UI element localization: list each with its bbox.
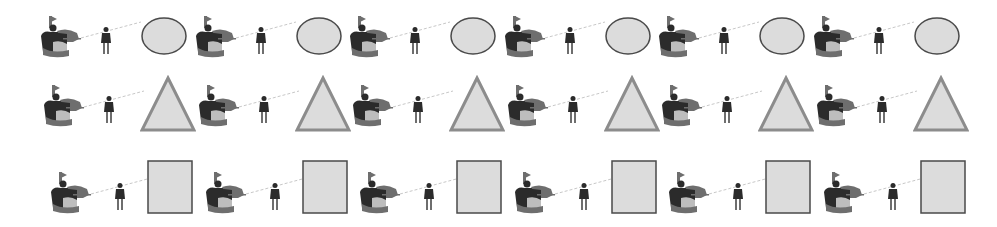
ellipse-shape — [449, 16, 497, 56]
foot-soldier-icon — [257, 95, 271, 125]
cavalry-rider-icon — [192, 14, 238, 60]
triangle-shape — [295, 75, 351, 133]
triangle-shape — [758, 75, 814, 133]
foot-soldier-icon — [422, 182, 436, 212]
foot-soldier-icon — [875, 95, 889, 125]
triangle-shape — [140, 75, 196, 133]
pattern-row-rectangle — [0, 160, 997, 218]
ellipse-shape — [913, 16, 961, 56]
ellipse-shape — [604, 16, 652, 56]
foot-soldier-icon — [99, 26, 113, 56]
foot-soldier-icon — [720, 95, 734, 125]
foot-soldier-icon — [566, 95, 580, 125]
rectangle-shape — [456, 160, 502, 214]
cavalry-rider-icon — [511, 170, 557, 216]
cavalry-rider-icon — [820, 170, 866, 216]
ellipse-shape — [758, 16, 806, 56]
cavalry-rider-icon — [810, 14, 856, 60]
rectangle-shape — [147, 160, 193, 214]
triangle-shape — [913, 75, 969, 133]
triangle-shape — [604, 75, 660, 133]
foot-soldier-icon — [717, 26, 731, 56]
foot-soldier-icon — [731, 182, 745, 212]
rectangle-shape — [611, 160, 657, 214]
foot-soldier-icon — [411, 95, 425, 125]
triangle-shape — [449, 75, 505, 133]
cavalry-rider-icon — [501, 14, 547, 60]
ellipse-shape — [140, 16, 188, 56]
cavalry-rider-icon — [655, 14, 701, 60]
foot-soldier-icon — [113, 182, 127, 212]
rectangle-shape — [302, 160, 348, 214]
foot-soldier-icon — [268, 182, 282, 212]
pattern-row-triangle — [0, 75, 997, 135]
cavalry-rider-icon — [40, 83, 86, 129]
cavalry-rider-icon — [504, 83, 550, 129]
foot-soldier-icon — [886, 182, 900, 212]
foot-soldier-icon — [102, 95, 116, 125]
cavalry-rider-icon — [346, 14, 392, 60]
foot-soldier-icon — [872, 26, 886, 56]
pattern-row-ellipse — [0, 14, 997, 60]
foot-soldier-icon — [408, 26, 422, 56]
cavalry-rider-icon — [47, 170, 93, 216]
cavalry-rider-icon — [356, 170, 402, 216]
foot-soldier-icon — [563, 26, 577, 56]
cavalry-rider-icon — [665, 170, 711, 216]
cavalry-rider-icon — [195, 83, 241, 129]
cavalry-rider-icon — [813, 83, 859, 129]
rectangle-shape — [920, 160, 966, 214]
foot-soldier-icon — [577, 182, 591, 212]
cavalry-rider-icon — [658, 83, 704, 129]
ellipse-shape — [295, 16, 343, 56]
cavalry-rider-icon — [202, 170, 248, 216]
cavalry-rider-icon — [37, 14, 83, 60]
foot-soldier-icon — [254, 26, 268, 56]
rectangle-shape — [765, 160, 811, 214]
cavalry-rider-icon — [349, 83, 395, 129]
